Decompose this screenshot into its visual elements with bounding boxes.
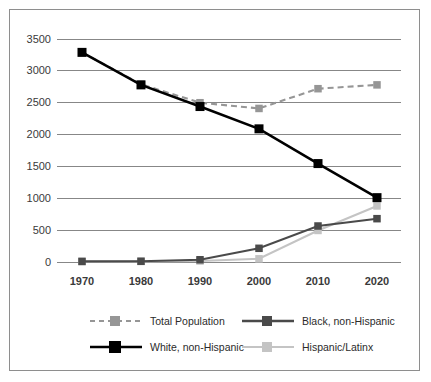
- data-point-marker: [255, 245, 263, 253]
- data-point-marker: [373, 193, 382, 202]
- legend-label-white-non-hispanic: White, non-Hispanic: [150, 341, 244, 353]
- series-line: [82, 52, 377, 108]
- series-line: [82, 52, 377, 197]
- y-tick-2000: 2000: [27, 128, 51, 140]
- legend-item-white-non-hispanic[interactable]: White, non-Hispanic: [90, 341, 244, 353]
- series-hispanic-latinx: [78, 202, 381, 265]
- x-tick-1970: 1970: [70, 275, 94, 287]
- chart-frame: 3500 3000 2500 2000 1500 1000 500 0 1970…: [9, 9, 420, 371]
- data-point-marker: [78, 258, 86, 266]
- x-tick-1980: 1980: [129, 275, 153, 287]
- legend-swatch-marker-white-non-hispanic: [109, 341, 121, 353]
- data-point-marker: [137, 80, 146, 89]
- data-point-marker: [255, 124, 264, 133]
- legend-label-black-non-hispanic: Black, non-Hispanic: [302, 315, 395, 327]
- series-layer: [78, 48, 382, 266]
- y-tick-1500: 1500: [27, 160, 51, 172]
- data-point-marker: [314, 222, 322, 230]
- chart-legend: Total Population Black, non-Hispanic Whi…: [90, 315, 395, 353]
- legend-label-hispanic-latinx: Hispanic/Latinx: [302, 341, 374, 353]
- series-line: [82, 219, 377, 262]
- gridlines: [57, 39, 401, 262]
- y-tick-0: 0: [45, 256, 51, 268]
- legend-swatch-marker-black-non-hispanic: [262, 316, 272, 326]
- y-tick-3500: 3500: [27, 33, 51, 45]
- y-tick-1000: 1000: [27, 192, 51, 204]
- data-point-marker: [137, 257, 145, 265]
- legend-item-hispanic-latinx[interactable]: Hispanic/Latinx: [242, 341, 374, 353]
- y-tick-3000: 3000: [27, 64, 51, 76]
- line-chart: 3500 3000 2500 2000 1500 1000 500 0 1970…: [10, 10, 421, 372]
- data-point-marker: [373, 81, 381, 89]
- data-point-marker: [196, 102, 205, 111]
- y-tick-2500: 2500: [27, 96, 51, 108]
- legend-label-total-population: Total Population: [150, 315, 225, 327]
- data-point-marker: [314, 159, 323, 168]
- x-axis-labels: 1970 1980 1990 2000 2010 2020: [70, 275, 389, 287]
- data-point-marker: [314, 85, 322, 93]
- legend-item-total-population[interactable]: Total Population: [90, 315, 225, 327]
- x-tick-2010: 2010: [306, 275, 330, 287]
- y-axis-labels: 3500 3000 2500 2000 1500 1000 500 0: [27, 33, 51, 268]
- data-point-marker: [373, 215, 381, 223]
- data-point-marker: [255, 105, 263, 113]
- legend-item-black-non-hispanic[interactable]: Black, non-Hispanic: [242, 315, 395, 327]
- legend-swatch-marker-total-population: [110, 316, 120, 326]
- data-point-marker: [196, 256, 204, 264]
- x-tick-2000: 2000: [247, 275, 271, 287]
- legend-swatch-marker-hispanic-latinx: [262, 342, 272, 352]
- data-point-marker: [255, 255, 263, 262]
- series-white-non-hispanic: [78, 48, 382, 202]
- data-point-marker: [373, 202, 381, 210]
- x-tick-1990: 1990: [188, 275, 212, 287]
- series-total-population: [78, 49, 381, 113]
- y-tick-500: 500: [33, 224, 51, 236]
- data-point-marker: [78, 48, 87, 57]
- x-tick-2020: 2020: [365, 275, 389, 287]
